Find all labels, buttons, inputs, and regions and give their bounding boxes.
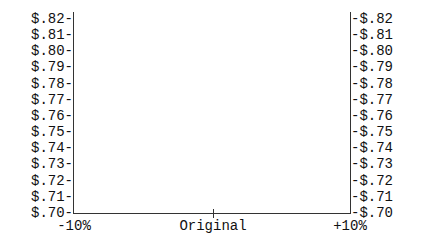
left-y-tick-label: $.74- bbox=[31, 140, 73, 156]
left-y-tick-label: $.76- bbox=[31, 108, 73, 124]
left-y-tick-label: $.72- bbox=[31, 173, 73, 189]
left-y-tick-label: $.71- bbox=[31, 189, 73, 205]
center-tick-horizontal bbox=[209, 213, 218, 214]
right-y-tick-label: -$.77 bbox=[351, 92, 393, 108]
x-tick-label-plus10: +10% bbox=[333, 218, 367, 234]
right-y-tick-label: -$.74 bbox=[351, 140, 393, 156]
right-y-tick-label: -$.72 bbox=[351, 173, 393, 189]
right-y-tick-label: -$.82 bbox=[351, 11, 393, 27]
left-y-axis bbox=[73, 12, 74, 214]
left-y-tick-label: $.73- bbox=[31, 156, 73, 172]
x-tick-label-minus10: -10% bbox=[57, 218, 91, 234]
right-y-tick-label: -$.81 bbox=[351, 27, 393, 43]
left-y-tick-label: $.77- bbox=[31, 92, 73, 108]
right-y-tick-label: -$.79 bbox=[351, 59, 393, 75]
right-y-tick-label: -$.78 bbox=[351, 76, 393, 92]
left-y-tick-label: $.82- bbox=[31, 11, 73, 27]
right-y-tick-label: -$.75 bbox=[351, 124, 393, 140]
right-y-tick-label: -$.76 bbox=[351, 108, 393, 124]
right-y-tick-label: -$.73 bbox=[351, 156, 393, 172]
left-y-tick-label: $.79- bbox=[31, 59, 73, 75]
x-tick-label-original: Original bbox=[179, 218, 246, 234]
left-y-tick-label: $.75- bbox=[31, 124, 73, 140]
right-y-tick-label: -$.80 bbox=[351, 43, 393, 59]
left-y-tick-label: $.81- bbox=[31, 27, 73, 43]
right-y-tick-label: -$.71 bbox=[351, 189, 393, 205]
left-y-tick-label: $.80- bbox=[31, 43, 73, 59]
left-y-tick-label: $.78- bbox=[31, 76, 73, 92]
chart: $.82-$.81-$.80-$.79-$.78-$.77-$.76-$.75-… bbox=[0, 0, 427, 247]
